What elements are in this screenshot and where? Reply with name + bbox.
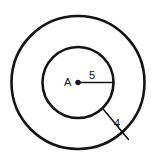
center-label: A — [64, 77, 71, 88]
figure-canvas — [0, 0, 162, 165]
inner-radius-label: 5 — [89, 70, 95, 81]
annulus-width-label: 4 — [114, 118, 120, 129]
concentric-circles-figure: A 5 4 — [0, 0, 162, 165]
center-point-dot — [75, 80, 80, 85]
